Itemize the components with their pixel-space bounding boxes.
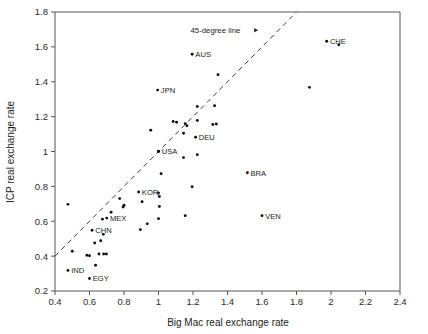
data-point — [215, 122, 218, 125]
data-point — [211, 123, 214, 126]
data-point-labeled — [157, 150, 160, 153]
data-point — [308, 86, 311, 89]
x-tick-label: 1.8 — [290, 296, 303, 307]
chart-canvas: 0.40.60.811.21.41.61.822.22.4 0.20.40.60… — [0, 0, 428, 334]
data-point-labeled — [91, 229, 94, 232]
data-point — [196, 153, 199, 156]
x-tick-label: 0.8 — [117, 296, 130, 307]
y-tick-label: 0.6 — [35, 216, 48, 227]
data-point-label: IND — [71, 266, 85, 275]
chart-background — [0, 0, 428, 334]
data-point-labeled — [261, 214, 264, 217]
y-tick-label: 0.4 — [35, 251, 48, 262]
x-axis-title: Big Mac real exchange rate — [167, 317, 289, 328]
y-tick-label: 1.6 — [35, 41, 48, 52]
data-point-labeled — [66, 269, 69, 272]
data-point — [105, 253, 108, 256]
x-tick-label: 2.2 — [359, 296, 372, 307]
data-point — [182, 132, 185, 135]
data-point-label: USA — [162, 147, 179, 156]
data-point — [184, 214, 187, 217]
data-point-label: CHN — [95, 226, 111, 235]
data-point — [94, 264, 97, 267]
y-tick-label: 1 — [43, 146, 48, 157]
y-axis-title: ICP real exchange rate — [5, 101, 16, 204]
data-point-labeled — [325, 40, 328, 43]
x-tick-label: 1.6 — [255, 296, 268, 307]
data-point-labeled — [88, 277, 91, 280]
y-tick-label: 0.8 — [35, 181, 48, 192]
annotation-label: 45-degree line — [190, 26, 240, 35]
data-point — [122, 206, 125, 209]
x-tick-label: 1.2 — [186, 296, 199, 307]
data-point-label: BRA — [251, 169, 268, 178]
y-tick-label: 0.2 — [35, 285, 48, 296]
data-point — [182, 156, 185, 159]
x-tick-label: 0.4 — [48, 296, 61, 307]
data-point — [172, 120, 175, 123]
data-point — [158, 195, 161, 198]
data-point — [191, 185, 194, 188]
data-point-label: CHE — [330, 37, 346, 46]
data-point — [88, 254, 91, 257]
x-tick-label: 0.6 — [83, 296, 96, 307]
data-point — [102, 253, 105, 256]
data-point — [139, 228, 142, 231]
data-point-label: AUS — [195, 50, 211, 59]
data-point-label: KOR — [142, 188, 159, 197]
data-point — [157, 217, 160, 220]
data-point-label: MEX — [110, 214, 126, 223]
data-point — [118, 197, 121, 200]
data-point-labeled — [246, 171, 249, 174]
data-point-labeled — [194, 136, 197, 139]
data-point — [213, 104, 216, 107]
data-point — [186, 124, 189, 127]
data-point-labeled — [105, 217, 108, 220]
data-point-label: VEN — [265, 212, 281, 221]
data-point-labeled — [137, 191, 140, 194]
data-point — [71, 250, 74, 253]
x-tick-label: 2 — [328, 296, 333, 307]
y-tick-label: 1.4 — [35, 76, 48, 87]
x-tick-label: 2.4 — [393, 296, 406, 307]
data-point — [93, 242, 96, 245]
x-tick-label: 1.4 — [221, 296, 234, 307]
data-point — [196, 119, 199, 122]
data-point — [158, 205, 161, 208]
data-point-label: DEU — [199, 133, 215, 142]
data-point — [85, 254, 88, 257]
data-point-label: JPN — [161, 86, 175, 95]
data-point-labeled — [191, 53, 194, 56]
data-point — [101, 218, 104, 221]
data-point — [160, 172, 163, 175]
data-point — [196, 105, 199, 108]
data-point-labeled — [156, 89, 159, 92]
data-point — [66, 203, 69, 206]
y-tick-label: 1.8 — [35, 6, 48, 17]
data-point — [146, 222, 149, 225]
data-point-label: EGY — [93, 274, 109, 283]
x-tick-label: 1 — [156, 296, 161, 307]
scatter-chart-figure: 0.40.60.811.21.41.61.822.22.4 0.20.40.60… — [0, 0, 428, 334]
data-point — [175, 121, 178, 124]
y-tick-label: 1.2 — [35, 111, 48, 122]
data-point — [98, 253, 101, 256]
data-point — [149, 129, 152, 132]
data-point — [99, 239, 102, 242]
data-point — [217, 73, 220, 76]
data-point — [141, 200, 144, 203]
